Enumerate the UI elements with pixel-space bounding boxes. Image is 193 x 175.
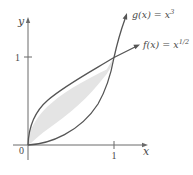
y-axis-arrow-icon xyxy=(26,17,30,23)
curve-g-label-exponent: 3 xyxy=(170,8,174,16)
curve-f-arrow-icon xyxy=(133,45,140,50)
x-axis-label: x xyxy=(143,145,150,158)
area-between-curves-diagram: y x 0 1 1 g(x) = x3 f(x) = x1/2 xyxy=(0,0,193,175)
curve-f-label-name: f(x) = x xyxy=(142,39,179,50)
y-tick-label-1: 1 xyxy=(15,52,20,63)
y-axis-label: y xyxy=(17,15,25,28)
curve-f-label-exponent: 1/2 xyxy=(179,38,189,46)
shaded-region xyxy=(28,57,114,145)
curve-f-label: f(x) = x1/2 xyxy=(142,38,189,50)
curve-g-label-name: g(x) = x xyxy=(132,9,171,20)
origin-label: 0 xyxy=(19,145,24,156)
curve-g-label: g(x) = x3 xyxy=(132,8,174,20)
curve-g-arrow-icon xyxy=(123,13,128,20)
x-tick-label-1: 1 xyxy=(112,150,117,161)
